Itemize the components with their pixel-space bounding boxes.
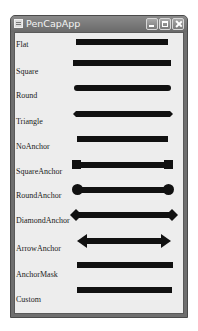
row-roundanchor: RoundAnchor — [15, 184, 183, 208]
close-button[interactable] — [172, 18, 184, 30]
maximize-button[interactable] — [159, 18, 171, 30]
label-squareanchor: SquareAnchor — [16, 167, 62, 177]
label-round: Round — [16, 91, 37, 101]
square-anchor-start — [72, 160, 81, 169]
label-noanchor: NoAnchor — [16, 142, 50, 152]
label-square: Square — [16, 67, 38, 77]
row-custom: Custom — [15, 286, 183, 310]
line-square — [73, 60, 171, 66]
minimize-button[interactable] — [146, 18, 158, 30]
line-triangle — [73, 110, 173, 118]
line-anchormask — [77, 262, 173, 268]
line-squareanchor — [77, 162, 168, 168]
window-title: PenCapApp — [26, 17, 80, 31]
row-arrowanchor: ArrowAnchor — [15, 234, 183, 258]
line-noanchor — [77, 136, 168, 142]
row-squareanchor: SquareAnchor — [15, 160, 183, 184]
label-diamondanchor: DiamondAnchor — [16, 216, 70, 226]
row-triangle: Triangle — [15, 110, 183, 134]
row-round: Round — [15, 85, 183, 109]
row-square: Square — [15, 60, 183, 84]
row-flat: Flat — [15, 35, 183, 59]
client-area: Flat Square Round Triangle NoAnchor Squ — [14, 32, 184, 314]
label-triangle: Triangle — [16, 117, 43, 127]
label-arrowanchor: ArrowAnchor — [16, 244, 61, 254]
label-custom: Custom — [16, 295, 41, 305]
line-diamondanchor — [70, 209, 178, 221]
round-anchor-start — [72, 184, 83, 195]
line-arrowanchor — [77, 234, 171, 248]
row-noanchor: NoAnchor — [15, 135, 183, 159]
title-bar[interactable]: PenCapApp — [11, 16, 187, 32]
round-anchor-end — [163, 184, 174, 195]
label-anchormask: AnchorMask — [16, 270, 58, 280]
line-roundanchor — [77, 187, 168, 193]
label-flat: Flat — [16, 40, 28, 50]
app-icon[interactable] — [14, 19, 23, 28]
label-roundanchor: RoundAnchor — [16, 191, 61, 201]
square-anchor-end — [164, 160, 173, 169]
line-custom — [77, 287, 172, 293]
app-window: PenCapApp Flat Square Round Triangle — [10, 15, 188, 318]
row-diamondanchor: DiamondAnchor — [15, 209, 183, 233]
row-anchormask: AnchorMask — [15, 261, 183, 285]
line-flat — [76, 39, 168, 45]
line-round — [74, 85, 171, 91]
